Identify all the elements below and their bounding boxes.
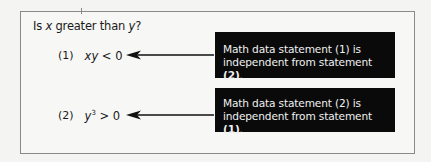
note-text: Math data statement (2) is independent f… — [223, 97, 372, 122]
question-text: Is x greater than y? — [33, 19, 141, 33]
statement-1: (1) xy < 0 — [58, 49, 122, 63]
statement-number: (1) — [58, 49, 74, 63]
question-prefix: Is — [33, 19, 45, 33]
callout-note-1: Math data statement (1) is independent f… — [215, 32, 395, 78]
expression-rest: < 0 — [98, 49, 122, 63]
question-suffix: ? — [135, 19, 141, 33]
expression-rest: > 0 — [96, 109, 120, 123]
note-end: . — [240, 123, 243, 135]
note-reference: (1) — [223, 123, 240, 135]
statement-expression: y3 > 0 — [85, 109, 121, 123]
callout-note-2: Math data statement (2) is independent f… — [215, 88, 395, 132]
frame-tick-mark — [81, 8, 82, 14]
expression-vars: xy — [85, 49, 99, 63]
statement-expression: xy < 0 — [85, 49, 123, 63]
statement-2: (2) y3 > 0 — [58, 109, 120, 123]
question-middle: greater than — [52, 19, 129, 33]
note-end: . — [240, 69, 243, 81]
note-reference: (2) — [223, 69, 240, 81]
arrow-left-icon — [126, 109, 216, 121]
arrow-left-icon — [126, 49, 216, 61]
statement-number: (2) — [58, 109, 74, 123]
note-text: Math data statement (1) is independent f… — [223, 43, 372, 68]
